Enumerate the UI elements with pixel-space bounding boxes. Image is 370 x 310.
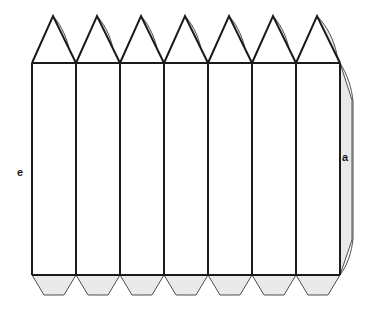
edge-label-a: a — [342, 151, 349, 163]
rectangular-face — [164, 63, 208, 275]
net-diagram: e a — [0, 0, 370, 310]
rectangular-face — [32, 63, 76, 275]
right-side-flap — [340, 63, 352, 275]
rectangular-face — [208, 63, 252, 275]
rectangular-face — [252, 63, 296, 275]
rectangular-face — [76, 63, 120, 275]
figure-root: e a — [0, 0, 370, 310]
edge-label-e: e — [17, 166, 23, 178]
rectangular-face — [120, 63, 164, 275]
rectangular-face — [296, 63, 340, 275]
